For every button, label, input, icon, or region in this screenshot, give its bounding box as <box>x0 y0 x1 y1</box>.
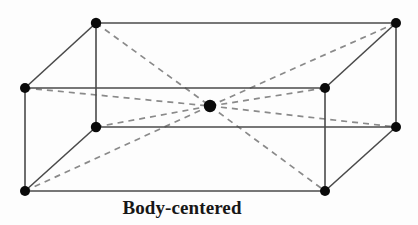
corner-atom-front-bottom-right <box>320 186 330 196</box>
corner-atom-front-top-right <box>320 83 330 93</box>
body-centered-lattice-figure: Body-centered <box>0 0 418 225</box>
figure-caption: Body-centered <box>122 196 241 219</box>
corner-atom-front-bottom-left <box>20 186 30 196</box>
corner-atom-back-top-left <box>91 18 101 28</box>
lattice-diagram <box>0 0 418 225</box>
body-center-atom <box>204 100 216 112</box>
corner-atom-front-top-left <box>20 83 30 93</box>
corner-atom-back-bottom-right <box>391 122 401 132</box>
body-center-atom-group <box>204 100 216 112</box>
corner-atom-back-top-right <box>391 18 401 28</box>
corner-atom-back-bottom-left <box>91 122 101 132</box>
caption-layer: Body-centered <box>0 196 418 225</box>
